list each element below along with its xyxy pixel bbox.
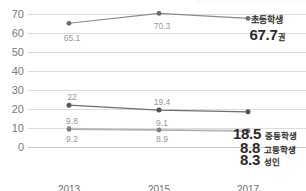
top-edge-artifact <box>196 0 306 4</box>
point-label-adult-2015: 8.9 <box>156 135 168 144</box>
y-tick-20: 20 <box>0 104 24 115</box>
point-label-elementary-2013: 65.1 <box>64 34 81 43</box>
line-chart: 70 60 50 40 30 20 10 0 <box>0 0 306 191</box>
y-tick-50: 50 <box>0 47 24 58</box>
point-label-middle-2013: 22 <box>67 93 76 102</box>
point-middle-2017 <box>246 109 251 114</box>
point-middle-2015 <box>157 108 162 113</box>
y-tick-70: 70 <box>0 9 24 20</box>
x-tick-2017: 2017 <box>237 184 259 191</box>
x-tick-2015: 2015 <box>148 184 170 191</box>
end-label-elementary-name: 초등학생 <box>236 16 298 25</box>
point-elementary-2013 <box>67 21 72 26</box>
end-label-adult-value: 8.3 <box>240 151 260 168</box>
x-tick-2013: 2013 <box>58 184 80 191</box>
y-tick-10: 10 <box>0 123 24 134</box>
end-label-adult-name: 성인 <box>264 157 280 167</box>
point-adult-2015 <box>157 128 162 133</box>
point-adult-2013 <box>67 127 72 132</box>
series-adult <box>67 127 251 133</box>
y-tick-40: 40 <box>0 66 24 77</box>
point-label-middle-2015: 19.4 <box>154 98 171 107</box>
end-label-elementary-unit: 권 <box>278 33 285 42</box>
point-label-high-2015: 9.1 <box>156 119 168 128</box>
y-tick-0: 0 <box>0 142 24 153</box>
end-label-adult: 8.3성인 <box>240 152 280 168</box>
point-elementary-2015 <box>157 11 162 16</box>
point-label-high-2013: 9.8 <box>66 117 78 126</box>
y-tick-30: 30 <box>0 85 24 96</box>
end-label-elementary: 초등학생67.7권 <box>236 16 298 43</box>
end-label-elementary-value: 67.7 <box>250 26 278 43</box>
point-middle-2013 <box>67 103 72 108</box>
point-label-elementary-2015: 70.3 <box>154 22 171 31</box>
point-label-adult-2013: 9.2 <box>66 135 78 144</box>
y-tick-60: 60 <box>0 28 24 39</box>
